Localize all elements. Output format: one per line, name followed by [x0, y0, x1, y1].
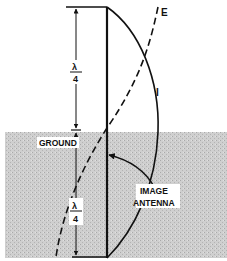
- upper-lambda: λ: [72, 62, 77, 72]
- label-e: E: [161, 7, 168, 18]
- label-ground: GROUND: [39, 138, 77, 148]
- label-image-antenna-line2: ANTENNA: [133, 198, 175, 208]
- ground-region: [5, 132, 227, 258]
- upper-four: 4: [73, 74, 78, 84]
- upper-lambda-quarter-label: λ 4: [70, 60, 82, 84]
- label-i: I: [156, 87, 159, 98]
- lower-lambda: λ: [72, 201, 77, 211]
- lower-four: 4: [73, 214, 78, 224]
- antenna-diagram: E I GROUND λ 4 λ 4 IMAGE ANTENNA: [0, 0, 227, 261]
- label-image-antenna-line1: IMAGE: [140, 186, 168, 196]
